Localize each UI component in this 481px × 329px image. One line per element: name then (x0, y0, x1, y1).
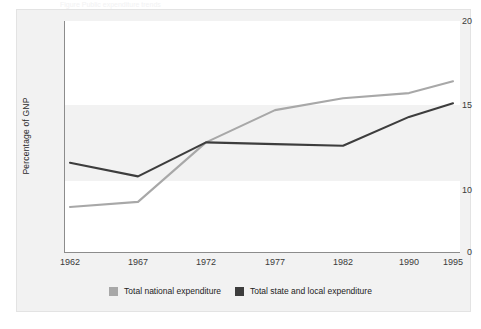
series-lines (0, 0, 481, 329)
series-line-total-state-and-local-expenditure (70, 103, 453, 176)
legend-item-national: Total national expenditure (109, 286, 221, 296)
chart-legend: Total national expenditure Total state a… (0, 286, 481, 296)
legend-swatch-state-local (235, 287, 244, 296)
legend-label-state-local: Total state and local expenditure (250, 286, 372, 296)
chart-figure: Figure Public expenditure trends Percent… (0, 0, 481, 329)
legend-swatch-national (109, 287, 118, 296)
legend-label-national: Total national expenditure (124, 286, 221, 296)
legend-item-state-local: Total state and local expenditure (235, 286, 372, 296)
